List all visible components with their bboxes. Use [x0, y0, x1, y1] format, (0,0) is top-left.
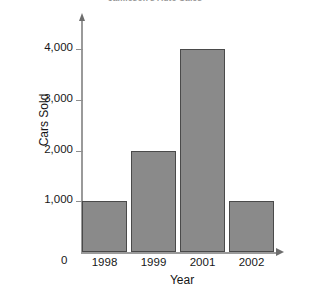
y-axis-tick-label: 4,000 [44, 41, 73, 53]
y-axis-tick-mark [76, 49, 83, 50]
x-axis-tick-label: 1999 [131, 256, 176, 268]
y-axis-tick-mark [76, 151, 83, 152]
x-axis-title: Year [0, 273, 310, 287]
bar-chart-figure: Jamieson's Auto Sales Cars Sold 0 1,0002… [0, 0, 310, 296]
chart-title: Jamieson's Auto Sales [0, 0, 310, 3]
y-axis-tick-label: 2,000 [44, 143, 73, 155]
bar [82, 201, 127, 252]
x-axis-arrow-icon [276, 248, 284, 256]
x-axis-tick-label: 1998 [82, 256, 127, 268]
x-axis-line [81, 252, 277, 254]
bar [131, 151, 176, 252]
y-axis-tick-label: 1,000 [44, 193, 73, 205]
plot-area: 0 1,0002,0003,0004,000 1998199920012002 [81, 20, 277, 253]
x-axis-tick-label: 2002 [229, 256, 274, 268]
y-axis-tick-mark [76, 100, 83, 101]
bar [180, 49, 225, 252]
y-axis-arrow-icon [79, 13, 85, 21]
bar [229, 201, 274, 252]
y-axis-tick-label: 3,000 [44, 92, 73, 104]
x-axis-tick-label: 2001 [180, 256, 225, 268]
axis-origin-label: 0 [61, 254, 67, 266]
